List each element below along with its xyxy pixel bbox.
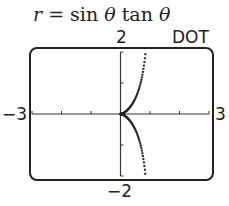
plot-area <box>0 0 229 206</box>
